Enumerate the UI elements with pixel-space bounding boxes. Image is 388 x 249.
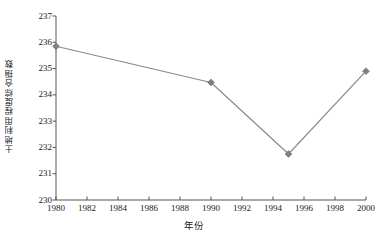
y-axis-tick-labels: 230231232233234235236237	[22, 16, 52, 200]
data-line	[56, 46, 366, 154]
line-chart-svg	[56, 16, 366, 200]
y-axis-tick-label: 234	[26, 90, 52, 99]
figure-caption	[0, 240, 388, 249]
plot-area	[56, 16, 366, 200]
y-axis-tick-label: 233	[26, 117, 52, 126]
x-axis-title: 年份	[0, 218, 388, 232]
x-axis-tick-label: 2000	[346, 203, 386, 213]
y-axis-tick-label: 235	[26, 64, 52, 73]
chart-figure: 土地利用程度综合指数 230231232233234235236237 1980…	[0, 0, 388, 249]
y-axis-tick-label: 237	[26, 12, 52, 21]
y-axis-tick-label: 231	[26, 169, 52, 178]
y-axis-tick-label: 232	[26, 143, 52, 152]
y-axis-title-label: 土地利用程度综合指数	[4, 59, 16, 153]
data-point-marker	[53, 43, 60, 50]
y-axis-tick-label: 236	[26, 38, 52, 47]
x-axis-tick-labels: 1980198219841986198819901992199419961998…	[56, 203, 366, 217]
y-axis-title: 土地利用程度综合指数	[2, 36, 18, 176]
